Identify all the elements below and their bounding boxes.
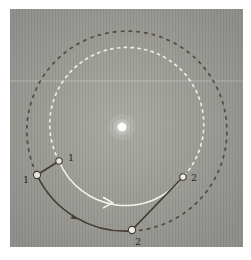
outer-travel-arc <box>37 175 132 231</box>
label-outer-position-1: 1 <box>23 174 29 185</box>
label-inner-position-1: 1 <box>68 152 74 163</box>
sun-dot <box>117 122 126 131</box>
outer-planet-position-1-dot <box>33 171 40 178</box>
inner-travel-arc <box>59 161 183 206</box>
figure-page: 1 1 2 2 <box>0 0 251 260</box>
label-inner-position-2: 2 <box>191 172 197 183</box>
inner-planet-position-2-dot <box>180 174 186 180</box>
inner-planet-position-1-dot <box>56 158 62 164</box>
label-outer-position-2: 2 <box>135 236 141 247</box>
orbit-diagram: 1 1 2 2 <box>0 0 251 260</box>
outer-planet-position-2-dot <box>128 226 135 233</box>
